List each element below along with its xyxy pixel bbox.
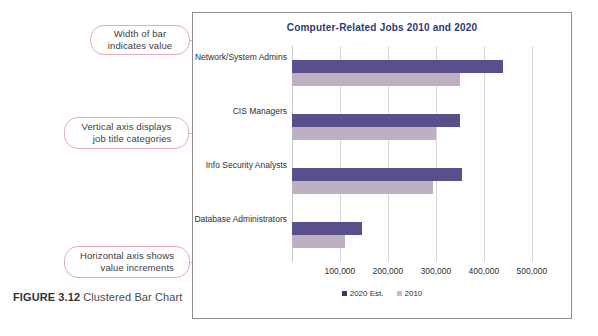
chart-title: Computer-Related Jobs 2010 and 2020	[193, 22, 571, 33]
legend-item-2010: 2010	[397, 289, 423, 298]
category-label: Network/System Admins	[192, 52, 287, 62]
bar-2010	[292, 235, 345, 248]
callout-line-2: value increments	[80, 262, 174, 275]
bar-2020	[292, 114, 460, 127]
callout-line-1: Vertical axis displays	[82, 121, 172, 134]
callout-horizontal-axis: Horizontal axis shows value increments	[64, 246, 190, 278]
bar-2010	[292, 127, 436, 140]
chart-legend: 2020 Est. 2010	[193, 289, 571, 298]
legend-label: 2020 Est.	[350, 289, 384, 298]
legend-swatch-icon	[342, 291, 347, 296]
plot-area: Network/System AdminsCIS ManagersInfo Se…	[292, 46, 551, 262]
bar-group: Database Administrators	[292, 208, 551, 262]
x-axis-tick-label: 200,000	[373, 266, 404, 276]
x-axis-tick-label: 400,000	[468, 266, 499, 276]
category-label: CIS Managers	[192, 106, 287, 116]
callout-line-1: Width of bar	[108, 28, 172, 41]
figure-number: FIGURE 3.12	[13, 291, 80, 303]
legend-swatch-icon	[397, 291, 402, 296]
figure-caption-text: Clustered Bar Chart	[83, 291, 182, 303]
bar-2020	[292, 60, 503, 73]
x-axis-tick-label: 500,000	[516, 266, 547, 276]
figure-caption: FIGURE 3.12 Clustered Bar Chart	[13, 290, 188, 304]
x-axis-tick-labels: 100,000200,000300,000400,000500,000	[292, 262, 551, 278]
callout-line-2: indicates value	[108, 40, 172, 53]
callout-width-of-bar: Width of bar indicates value	[90, 25, 190, 55]
bar-2010	[292, 181, 433, 194]
bar-2020	[292, 168, 462, 181]
bar-2020	[292, 222, 362, 235]
bar-group: CIS Managers	[292, 100, 551, 154]
x-axis-tick-label: 100,000	[325, 266, 356, 276]
bar-group: Network/System Admins	[292, 46, 551, 100]
callout-line-1: Horizontal axis shows	[80, 250, 174, 263]
legend-item-2020: 2020 Est.	[342, 289, 384, 298]
bar-2010	[292, 73, 460, 86]
category-label: Database Administrators	[192, 214, 287, 224]
callout-vertical-axis: Vertical axis displays job title categor…	[64, 117, 189, 149]
chart-frame: Computer-Related Jobs 2010 and 2020 Netw…	[192, 12, 572, 319]
category-label: Info Security Analysts	[192, 160, 287, 170]
legend-label: 2010	[405, 289, 423, 298]
x-axis-tick-label: 300,000	[421, 266, 452, 276]
bar-group: Info Security Analysts	[292, 154, 551, 208]
callout-line-2: job title categories	[82, 133, 172, 146]
